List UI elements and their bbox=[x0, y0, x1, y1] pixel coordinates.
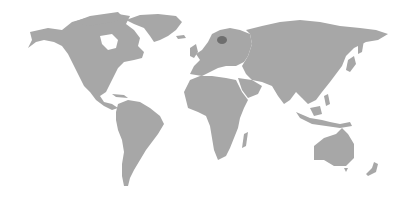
iceland bbox=[176, 35, 186, 39]
japan bbox=[346, 56, 356, 72]
north-america[interactable] bbox=[28, 14, 144, 110]
south-america[interactable] bbox=[116, 100, 164, 186]
australia[interactable] bbox=[314, 128, 354, 166]
europe[interactable] bbox=[190, 28, 252, 76]
tasmania bbox=[344, 168, 348, 172]
indonesia bbox=[296, 112, 352, 128]
philippines bbox=[324, 94, 330, 106]
caribbean bbox=[112, 94, 128, 98]
highlighted-country-estonia[interactable] bbox=[217, 36, 227, 44]
new-zealand bbox=[366, 162, 378, 176]
british-isles bbox=[190, 44, 198, 58]
asia[interactable] bbox=[242, 20, 388, 104]
world-map bbox=[0, 0, 414, 201]
africa[interactable] bbox=[184, 76, 248, 160]
madagascar bbox=[242, 132, 248, 148]
borneo bbox=[310, 106, 322, 116]
